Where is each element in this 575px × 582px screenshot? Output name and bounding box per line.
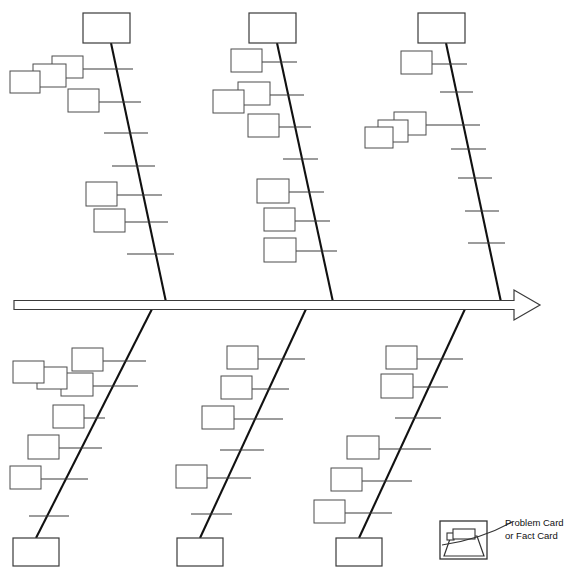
header-card-top-3[interactable] — [418, 13, 465, 43]
bone-line-bottom-3 — [359, 309, 465, 538]
card-top-1-5-1[interactable] — [86, 182, 117, 206]
branch-top-2 — [213, 13, 337, 302]
card-top-2-7-1[interactable] — [264, 238, 296, 262]
card-top-1-2-1[interactable] — [68, 89, 99, 112]
header-card-top-1[interactable] — [83, 13, 130, 43]
branch-bottom-1 — [10, 309, 152, 566]
card-bottom-3-6-1[interactable] — [314, 500, 345, 523]
card-bottom-1-3-1[interactable] — [53, 405, 84, 428]
legend-group: Problem Cardor Fact Card — [440, 517, 564, 559]
bone-line-top-1 — [111, 43, 166, 302]
card-top-2-5-1[interactable] — [257, 179, 289, 203]
branch-bottom-2 — [176, 309, 306, 566]
header-card-top-2[interactable] — [249, 13, 296, 43]
bone-line-top-3 — [446, 43, 501, 302]
fishbone-svg: Problem Cardor Fact Card — [0, 0, 575, 582]
footer-card-bottom-3[interactable] — [336, 538, 382, 566]
card-bottom-2-2-1[interactable] — [221, 376, 252, 399]
branch-top-3 — [365, 13, 505, 302]
card-bottom-1-4-1[interactable] — [28, 435, 59, 459]
footer-card-bottom-2[interactable] — [177, 538, 223, 566]
footer-card-bottom-1[interactable] — [13, 538, 59, 566]
legend-card-icon — [453, 529, 475, 539]
card-bottom-3-1-1[interactable] — [386, 346, 417, 369]
card-bottom-3-4-1[interactable] — [347, 436, 379, 459]
legend-label-line-2: or Fact Card — [505, 530, 558, 541]
card-bottom-2-3-1[interactable] — [202, 406, 234, 429]
card-top-2-2-2[interactable] — [213, 90, 244, 113]
card-top-2-6-1[interactable] — [264, 208, 295, 231]
fishbone-diagram-canvas: Problem Cardor Fact Card — [0, 0, 575, 582]
card-top-3-1-1[interactable] — [401, 51, 432, 74]
card-bottom-3-5-1[interactable] — [331, 468, 362, 491]
card-bottom-1-1-1[interactable] — [72, 348, 103, 371]
branches-layer — [10, 13, 505, 566]
card-bottom-2-1-1[interactable] — [227, 346, 258, 369]
legend-label-line-1: Problem Card — [505, 517, 564, 528]
card-top-2-1-1[interactable] — [231, 49, 262, 72]
card-bottom-3-2-1[interactable] — [381, 374, 413, 398]
card-top-1-1-3[interactable] — [10, 71, 40, 93]
card-top-1-6-1[interactable] — [94, 209, 125, 232]
branch-top-1 — [10, 13, 174, 302]
legend-layer: Problem Cardor Fact Card — [440, 517, 564, 559]
card-bottom-1-5-1[interactable] — [10, 466, 41, 489]
card-bottom-2-5-1[interactable] — [176, 465, 207, 488]
card-top-3-3-3[interactable] — [365, 127, 393, 148]
card-bottom-1-2-3[interactable] — [13, 361, 44, 383]
bone-line-top-2 — [277, 43, 333, 302]
card-top-2-3-1[interactable] — [248, 114, 279, 137]
